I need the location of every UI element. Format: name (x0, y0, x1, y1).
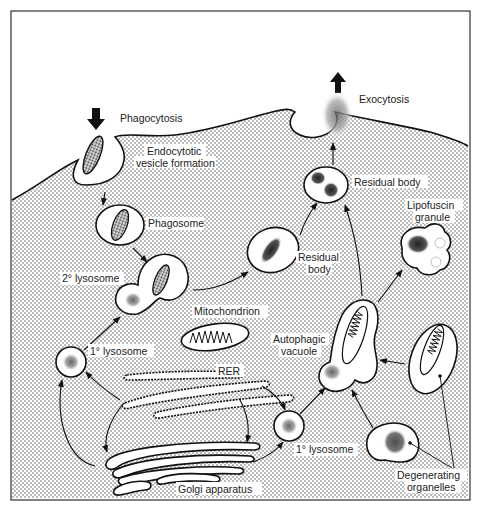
label-residual-body-top: Residual body (354, 176, 421, 188)
label-autophagic-line1: Autophagic (273, 333, 326, 345)
label-primary-lysosome-left: 1° lysosome (90, 345, 147, 357)
label-phagosome: Phagosome (148, 217, 204, 229)
phagosome (96, 205, 144, 245)
label-degenerating-line1: Degenerating (397, 469, 460, 481)
label-secondary-lysosome: 2° lysosome (62, 272, 119, 284)
label-endocytotic-line2: vesicle formation (136, 157, 215, 169)
label-endocytotic-line1: Endocytotic (147, 145, 201, 157)
label-lipofuscin-line1: Lipofuscin (407, 199, 454, 211)
label-degenerating-line2: organelles (407, 481, 455, 493)
label-lipofuscin-line2: granule (415, 211, 450, 223)
label-mitochondrion: Mitochondrion (194, 305, 260, 317)
residual-body-top (304, 167, 348, 203)
primary-lysosome-right (274, 411, 304, 441)
primary-lysosome-left (56, 347, 86, 377)
label-residual-line1: Residual (298, 251, 339, 263)
label-phagocytosis: Phagocytosis (120, 112, 182, 124)
label-rer: RER (218, 365, 241, 377)
degenerating-organelle (367, 423, 419, 462)
lysosome-pathway-diagram: Phagocytosis Exocytosis Endocytotic vesi… (0, 0, 481, 512)
label-golgi: Golgi apparatus (178, 483, 252, 495)
label-exocytosis: Exocytosis (359, 93, 409, 105)
exocytosis-spray (321, 91, 353, 139)
label-autophagic-line2: vacuole (281, 345, 317, 357)
label-primary-lysosome-right: 1° lysosome (296, 443, 353, 455)
label-residual-line2: body (308, 263, 332, 275)
